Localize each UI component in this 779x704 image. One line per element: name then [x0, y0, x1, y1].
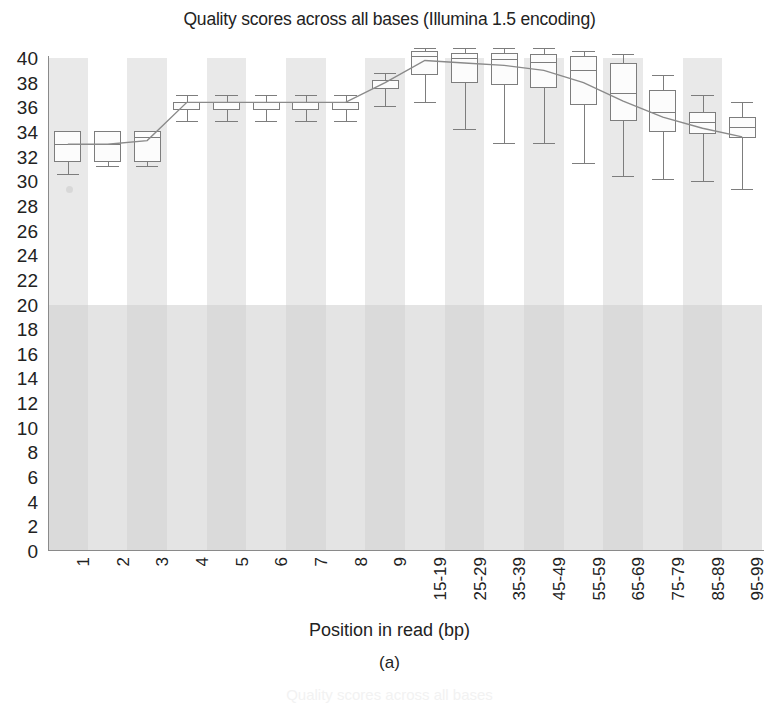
- x-axis-line: [48, 550, 764, 551]
- y-axis-tick: 24: [0, 246, 38, 265]
- y-axis-tick: 26: [0, 221, 38, 240]
- y-axis-tick: 20: [0, 295, 38, 314]
- x-axis-tick: 8: [353, 557, 370, 566]
- x-axis-tick: 25-29: [472, 557, 489, 600]
- y-axis-line: [48, 56, 49, 551]
- mean-trend-polyline: [68, 60, 742, 144]
- x-axis-tick: 75-79: [670, 557, 687, 600]
- x-axis-tick: 3: [154, 557, 171, 566]
- x-axis-tick: 2: [115, 557, 132, 566]
- y-axis-tick: 22: [0, 270, 38, 289]
- x-axis-tick: 15-19: [432, 557, 449, 600]
- y-axis-tick: 40: [0, 49, 38, 68]
- figure-quality-scores: Quality scores across all bases (Illumin…: [0, 0, 779, 704]
- whisker-cap-upper: [414, 48, 437, 49]
- mean-quality-trend-line: [48, 58, 762, 551]
- chart-title: Quality scores across all bases (Illumin…: [0, 9, 779, 30]
- y-axis-tick: 32: [0, 147, 38, 166]
- y-axis-tick: 12: [0, 394, 38, 413]
- whisker-cap-upper: [453, 48, 476, 49]
- panel-label: (a): [0, 653, 779, 673]
- whisker-cap-upper: [572, 51, 595, 52]
- y-axis-tick: 18: [0, 320, 38, 339]
- y-axis-tick: 10: [0, 418, 38, 437]
- plot-area: 4038363432302826242220181614121086420: [48, 58, 762, 551]
- box-median: [411, 56, 438, 57]
- x-axis-tick: 95-99: [749, 557, 766, 600]
- x-axis-label: Position in read (bp): [0, 620, 779, 641]
- y-axis-tick: 2: [0, 517, 38, 536]
- y-axis-tick: 28: [0, 196, 38, 215]
- y-axis-tick: 30: [0, 172, 38, 191]
- y-axis-tick: 4: [0, 492, 38, 511]
- x-axis-tick: 5: [234, 557, 251, 566]
- y-axis-tick: 0: [0, 542, 38, 561]
- x-axis-tick: 55-59: [591, 557, 608, 600]
- whisker-cap-upper: [493, 48, 516, 49]
- x-axis-tick: 7: [313, 557, 330, 566]
- x-axis-tick: 65-69: [630, 557, 647, 600]
- y-axis-tick: 8: [0, 443, 38, 462]
- scan-artifact-speck: [66, 186, 73, 193]
- x-axis-tick: 35-39: [511, 557, 528, 600]
- whisker-cap-upper: [533, 48, 556, 49]
- x-axis-tick: 6: [273, 557, 290, 566]
- x-axis-tick: 45-49: [551, 557, 568, 600]
- y-axis-tick: 34: [0, 122, 38, 141]
- x-axis-tick: 4: [194, 557, 211, 566]
- y-axis-tick: 38: [0, 73, 38, 92]
- x-axis-tick: 85-89: [710, 557, 727, 600]
- x-axis-tick: 1: [75, 557, 92, 566]
- whisker-cap-upper: [612, 54, 635, 55]
- y-axis-tick: 14: [0, 369, 38, 388]
- y-axis-tick: 6: [0, 468, 38, 487]
- y-axis-tick: 16: [0, 344, 38, 363]
- y-axis-tick: 36: [0, 98, 38, 117]
- x-axis-tick: 9: [392, 557, 409, 566]
- ghost-caption-text: Quality scores across all bases: [0, 686, 779, 703]
